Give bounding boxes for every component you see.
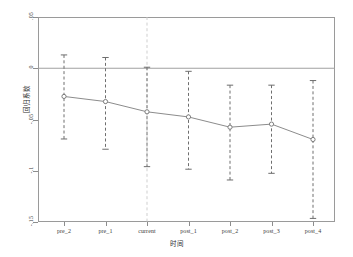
error-bar xyxy=(310,81,316,219)
x-axis-tick-mark xyxy=(106,222,107,226)
x-axis-tick-label: post_1 xyxy=(166,228,212,234)
error-bar xyxy=(185,71,191,169)
y-axis-tick-label: -.1 xyxy=(28,160,34,180)
x-axis-tick-label: current xyxy=(124,228,170,234)
x-axis-title: 时间 xyxy=(0,238,353,248)
x-axis-tick-label: post_4 xyxy=(290,228,336,234)
error-bar xyxy=(268,85,274,173)
x-axis-tick-mark xyxy=(313,222,314,226)
y-axis-tick-label: -.15 xyxy=(28,211,34,231)
x-axis-tick-label: pre_2 xyxy=(41,228,87,234)
error-bar xyxy=(227,85,233,180)
data-point-marker[interactable] xyxy=(103,99,107,103)
data-point-marker[interactable] xyxy=(269,122,273,126)
x-axis-tick-label: post_2 xyxy=(207,228,253,234)
x-axis-tick-label: post_3 xyxy=(249,228,295,234)
data-point-marker[interactable] xyxy=(145,110,149,114)
x-axis-tick-mark xyxy=(64,222,65,226)
data-point-marker[interactable] xyxy=(186,115,190,119)
y-axis-tick-label: .05 xyxy=(28,6,34,26)
x-axis-tick-mark xyxy=(189,222,190,226)
x-axis-tick-mark xyxy=(230,222,231,226)
plot-drawing-layer xyxy=(38,17,335,222)
data-point-marker[interactable] xyxy=(228,125,232,129)
y-axis-title: 回归系数 xyxy=(21,79,31,119)
x-axis-tick-label: pre_1 xyxy=(83,228,129,234)
data-point-marker[interactable] xyxy=(311,137,315,141)
x-axis-tick-mark xyxy=(147,222,148,226)
data-point-marker[interactable] xyxy=(62,94,66,98)
chart-canvas: .050-.05-.1-.15 pre_2pre_1currentpost_1p… xyxy=(0,0,353,257)
x-axis-tick-mark xyxy=(272,222,273,226)
y-axis-tick-label: 0 xyxy=(28,57,34,77)
